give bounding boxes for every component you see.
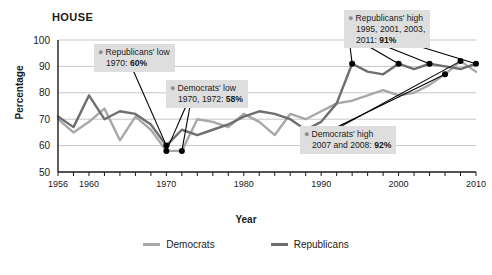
y-tick-70: 70 bbox=[39, 114, 51, 125]
data-point-marker bbox=[163, 148, 169, 154]
annotation-line-1: Democrats' low bbox=[177, 83, 235, 93]
legend-item-democrats[interactable]: Democrats bbox=[143, 239, 214, 250]
y-tick-100: 100 bbox=[33, 35, 50, 46]
legend-swatch-republicans bbox=[271, 243, 288, 246]
legend-label-republicans: Republicans bbox=[294, 239, 349, 250]
data-point-marker bbox=[163, 143, 169, 149]
data-series bbox=[58, 61, 476, 151]
y-tick-80: 80 bbox=[39, 87, 51, 98]
x-tick-2000: 2000 bbox=[389, 179, 409, 189]
data-point-marker bbox=[473, 61, 479, 67]
y-tick-labels: 5060708090100 bbox=[33, 35, 50, 178]
x-tick-2010: 2010 bbox=[466, 179, 486, 189]
bullet-icon: ● bbox=[98, 47, 103, 57]
leader-line bbox=[368, 46, 399, 64]
annotation-line-2: 2007 and 2008: bbox=[312, 140, 374, 150]
annotation-line-2: 1970: bbox=[106, 58, 130, 68]
annotation-republicans-high: ●Republicans' high 1995, 2001, 2003, 201… bbox=[344, 10, 430, 48]
bullet-icon: ● bbox=[348, 13, 353, 23]
x-tick-labels: 1956196019701980199020002010 bbox=[48, 179, 486, 189]
annotation-value: 91% bbox=[379, 35, 396, 45]
annotation-line-3: 2011: bbox=[356, 35, 379, 45]
bullet-icon: ● bbox=[304, 129, 309, 139]
x-tick-1990: 1990 bbox=[311, 179, 331, 189]
data-point-marker bbox=[396, 61, 402, 67]
data-point-marker bbox=[179, 148, 185, 154]
leader-line bbox=[133, 70, 166, 146]
annotation-value: 58% bbox=[226, 94, 243, 104]
leader-line bbox=[385, 46, 430, 64]
data-point-marker bbox=[442, 71, 448, 77]
x-tick-1956: 1956 bbox=[48, 179, 68, 189]
annotation-line-2: 1995, 2001, 2003, bbox=[348, 24, 425, 35]
legend-item-republicans[interactable]: Republicans bbox=[271, 239, 349, 250]
annotation-republicans-low: ●Republicans' low 1970: 60% bbox=[94, 44, 175, 72]
series-line-republicans bbox=[58, 64, 476, 146]
series-line-democrats bbox=[58, 61, 476, 151]
legend: Democrats Republicans bbox=[0, 239, 492, 250]
data-point-marker bbox=[349, 61, 355, 67]
y-tick-60: 60 bbox=[39, 140, 51, 151]
annotation-line-1: Republicans' low bbox=[105, 47, 169, 57]
bullet-icon: ● bbox=[170, 83, 175, 93]
x-tick-1970: 1970 bbox=[156, 179, 176, 189]
annotation-line-2: 1970, 1972: bbox=[178, 94, 226, 104]
y-tick-50: 50 bbox=[39, 167, 51, 178]
annotation-value: 92% bbox=[374, 140, 391, 150]
legend-label-democrats: Democrats bbox=[166, 239, 214, 250]
annotation-democrats-low: ●Democrats' low 1970, 1972: 58% bbox=[166, 80, 248, 108]
data-point-marker bbox=[427, 61, 433, 67]
leader-line bbox=[418, 46, 476, 64]
annotation-line-1: Democrats' high bbox=[311, 129, 373, 139]
x-tick-1980: 1980 bbox=[234, 179, 254, 189]
leader-line bbox=[338, 61, 461, 128]
x-tick-1960: 1960 bbox=[79, 179, 99, 189]
data-point-marker bbox=[458, 58, 464, 64]
annotation-value: 60% bbox=[130, 58, 147, 68]
y-tick-90: 90 bbox=[39, 61, 51, 72]
annotation-democrats-high: ●Democrats' high 2007 and 2008: 92% bbox=[300, 126, 396, 154]
annotation-line-1: Republicans' high bbox=[355, 13, 423, 23]
legend-swatch-democrats bbox=[143, 243, 160, 246]
chart-container: HOUSE Percentage Year 5060708090100 1956… bbox=[0, 0, 492, 275]
